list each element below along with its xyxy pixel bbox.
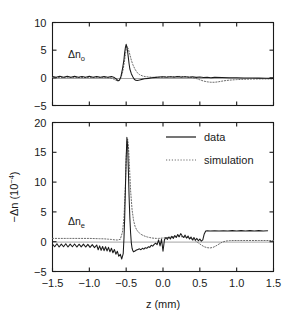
y-tick-label: 0 — [40, 236, 46, 248]
top-panel-ticks — [53, 23, 274, 106]
bottom-panel-label-text: Δn — [68, 215, 81, 227]
x-tick-label: −1.5 — [42, 277, 64, 289]
top-panel-y-ticklabels: −50510 — [34, 17, 47, 112]
legend: data simulation — [166, 131, 254, 166]
y-tick-label: 10 — [34, 17, 46, 29]
y-tick-label: 5 — [40, 206, 46, 218]
y-tick-label: 15 — [34, 146, 46, 158]
x-tick-label: −1.0 — [78, 277, 100, 289]
y-axis-label-exponent: −4 — [7, 175, 16, 184]
y-tick-label: 20 — [34, 117, 46, 129]
y-axis-label-main: −Δn (10 — [8, 184, 20, 223]
top-panel-label-text: Δn — [68, 48, 81, 60]
bottom-panel: −505101520 −1.5−1.0−0.50.00.51.01.5 Δne — [34, 117, 281, 289]
x-tick-label: −0.5 — [115, 277, 137, 289]
top-panel-label: Δno — [68, 48, 85, 63]
y-tick-label: −5 — [34, 100, 47, 112]
x-tick-label: 1.0 — [229, 277, 244, 289]
bottom-panel-y-ticklabels: −505101520 — [34, 117, 47, 278]
y-tick-label: 10 — [34, 176, 46, 188]
chart-svg: −50510 Δno −505101520 −1.5−1.0−0.50.00.5… — [0, 0, 297, 321]
y-axis-label: −Δn (10−4) — [7, 171, 20, 222]
top-panel-label-subscript: o — [81, 54, 85, 63]
y-tick-label: 5 — [40, 44, 46, 56]
top-panel: −50510 Δno — [34, 17, 274, 112]
top-panel-data-curve — [53, 44, 274, 81]
x-tick-label: 0.0 — [155, 277, 170, 289]
y-axis-label-close: ) — [8, 171, 20, 175]
y-tick-label: 0 — [40, 72, 46, 84]
bottom-panel-label: Δne — [68, 215, 85, 230]
x-tick-label: 1.5 — [266, 277, 281, 289]
top-panel-frame — [53, 23, 274, 106]
legend-label-simulation: simulation — [204, 154, 254, 166]
bottom-panel-x-ticklabels: −1.5−1.0−0.50.00.51.01.5 — [42, 277, 282, 289]
x-tick-label: 0.5 — [192, 277, 207, 289]
bottom-panel-label-subscript: e — [81, 221, 85, 230]
legend-label-data: data — [204, 131, 226, 143]
figure-container: −50510 Δno −505101520 −1.5−1.0−0.50.00.5… — [0, 0, 297, 321]
x-axis-label: z (mm) — [146, 298, 180, 310]
